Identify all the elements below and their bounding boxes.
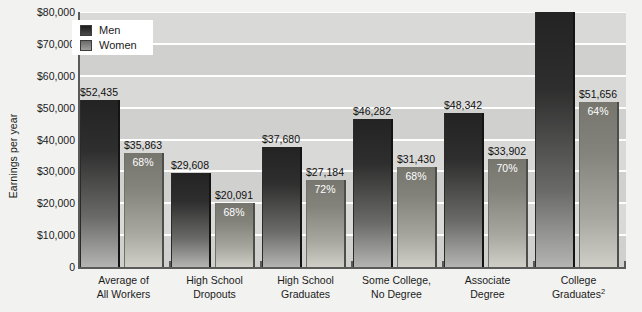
- bar-percent-label-women: 70%: [496, 162, 517, 174]
- legend-swatch-women-icon: [80, 40, 92, 51]
- legend-item-women[interactable]: Women: [80, 39, 137, 51]
- bar-value-label-men: $48,342: [444, 99, 482, 111]
- earnings-by-education-bar-chart: Earnings per year $80,000$70,000$60,000$…: [0, 0, 642, 312]
- category-label-line2: No Degree: [351, 288, 442, 302]
- category-axis-tick: [169, 261, 171, 268]
- y-axis-tick-label: $20,000: [37, 197, 75, 209]
- category-label-line2: Graduates2: [533, 288, 624, 302]
- bar-percent-label-women: 72%: [314, 183, 335, 195]
- y-axis-tick-label: $40,000: [37, 134, 75, 146]
- bar-men[interactable]: $37,680: [262, 147, 302, 267]
- bar-men[interactable]: $52,435: [80, 100, 120, 267]
- x-axis-category-label: High SchoolGraduates: [260, 274, 351, 301]
- plot-area: $52,435$35,86368%$29,608$20,09168%$37,68…: [78, 12, 626, 269]
- category-label-line1: College: [533, 274, 624, 288]
- category-axis-tick: [260, 261, 262, 268]
- category-label-footnote-marker: 2: [601, 286, 605, 295]
- bar-value-label-women: $35,863: [124, 139, 162, 151]
- bar-women[interactable]: $20,09168%: [215, 203, 255, 267]
- category-label-line1: Associate: [442, 274, 533, 288]
- bar-value-label-women: $20,091: [215, 189, 253, 201]
- legend-label-women: Women: [99, 39, 137, 51]
- category-axis-tick: [533, 261, 535, 268]
- category-label-line2: Graduates: [260, 288, 351, 302]
- bar-men[interactable]: $48,342: [444, 113, 484, 267]
- bar-value-label-men: $46,282: [353, 105, 391, 117]
- y-axis-tick-label: $10,000: [37, 229, 75, 241]
- y-axis-tick-label: $70,000: [37, 38, 75, 50]
- category-label-line1: High School: [169, 274, 260, 288]
- category-label-line1: Average of: [78, 274, 169, 288]
- y-axis-tick-label: $60,000: [37, 70, 75, 82]
- bar-value-label-women: $51,656: [579, 88, 617, 100]
- category-axis-tick: [351, 261, 353, 268]
- y-axis-tick-labels: $80,000$70,000$60,000$50,000$40,000$30,0…: [20, 12, 75, 269]
- bar-value-label-women: $33,902: [488, 145, 526, 157]
- legend-label-men: Men: [99, 24, 120, 36]
- category-axis-tick: [624, 261, 626, 268]
- legend-item-men[interactable]: Men: [80, 24, 137, 36]
- category-axis-tick: [442, 261, 444, 268]
- bar-women[interactable]: $33,90270%: [488, 159, 528, 267]
- x-axis-category-label: CollegeGraduates2: [533, 274, 624, 301]
- bar-value-label-men: $52,435: [80, 86, 118, 98]
- bar-value-label-men: $29,608: [171, 159, 209, 171]
- legend-swatch-men-icon: [80, 25, 92, 36]
- x-axis-category-labels: Average ofAll WorkersHigh SchoolDropouts…: [78, 274, 626, 312]
- y-axis-tick-label: $50,000: [37, 102, 75, 114]
- bar-value-label-women: $27,184: [306, 166, 344, 178]
- category-label-line1: High School: [260, 274, 351, 288]
- y-axis-tick-label: 0: [69, 261, 75, 273]
- chart-legend: Men Women: [72, 20, 153, 55]
- category-label-line2: Dropouts: [169, 288, 260, 302]
- bar-women[interactable]: $35,86368%: [124, 153, 164, 267]
- x-axis-category-label: Average ofAll Workers: [78, 274, 169, 301]
- y-axis-tick-label: $30,000: [37, 165, 75, 177]
- bar-percent-label-women: 68%: [223, 206, 244, 218]
- bar-value-label-women: $31,430: [397, 153, 435, 165]
- bar-men[interactable]: $80,144: [535, 12, 575, 267]
- bar-value-label-men: $37,680: [262, 133, 300, 145]
- category-label-line2: Degree: [442, 288, 533, 302]
- y-axis-tick-label: $80,000: [37, 6, 75, 18]
- category-label-line1: Some College,: [351, 274, 442, 288]
- bar-percent-label-women: 68%: [132, 156, 153, 168]
- bar-percent-label-women: 68%: [405, 170, 426, 182]
- bar-men[interactable]: $29,608: [171, 173, 211, 267]
- x-axis-category-label: Some College,No Degree: [351, 274, 442, 301]
- bar-women[interactable]: $31,43068%: [397, 167, 437, 267]
- category-label-line2: All Workers: [78, 288, 169, 302]
- x-axis-category-label: High SchoolDropouts: [169, 274, 260, 301]
- bar-women[interactable]: $27,18472%: [306, 180, 346, 267]
- bar-women[interactable]: $51,65664%: [579, 102, 619, 267]
- bar-percent-label-women: 64%: [587, 105, 608, 117]
- bar-men[interactable]: $46,282: [353, 119, 393, 267]
- x-axis-category-label: AssociateDegree: [442, 274, 533, 301]
